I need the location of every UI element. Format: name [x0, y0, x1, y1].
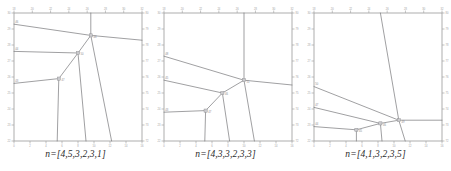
svg-text:76: 76	[296, 75, 299, 79]
svg-text:77: 77	[296, 59, 299, 63]
svg-text:30: 30	[8, 11, 11, 15]
figure-container: 0246810121416182022242628303230292827262…	[0, 0, 451, 171]
chart-plot-2: 0246810121416182022242628303230292827262…	[150, 0, 301, 150]
svg-text:6: 6	[211, 144, 213, 148]
svg-text:26: 26	[386, 7, 389, 11]
svg-text:76: 76	[446, 75, 449, 79]
svg-text:8: 8	[227, 144, 229, 148]
svg-text:28: 28	[8, 43, 11, 47]
svg-text:14: 14	[275, 144, 278, 148]
svg-text:30: 30	[308, 11, 311, 15]
svg-text:80: 80	[146, 11, 149, 15]
svg-text:26: 26	[158, 75, 161, 79]
svg-text:77: 77	[446, 59, 449, 63]
svg-text:16: 16	[291, 144, 294, 148]
svg-text:24: 24	[67, 7, 70, 11]
svg-text:44: 44	[15, 47, 18, 51]
svg-text:75: 75	[296, 91, 299, 95]
svg-text:25: 25	[8, 91, 11, 95]
svg-text:10: 10	[393, 144, 396, 148]
svg-text:30: 30	[122, 7, 125, 11]
svg-text:43: 43	[165, 108, 168, 112]
svg-text:2: 2	[29, 144, 31, 148]
svg-text:18: 18	[313, 7, 316, 11]
svg-text:16: 16	[141, 144, 144, 148]
svg-text:27: 27	[308, 59, 311, 63]
svg-text:20: 20	[31, 7, 34, 11]
svg-text:4: 4	[195, 144, 197, 148]
svg-text:80: 80	[446, 11, 449, 15]
chart-panel-1: 0246810121416182022242628303230292827262…	[0, 0, 151, 171]
svg-text:6: 6	[361, 144, 363, 148]
svg-text:2: 2	[179, 144, 181, 148]
svg-text:47: 47	[208, 110, 211, 114]
svg-text:8: 8	[77, 144, 79, 148]
chart-caption-3: n=[4,1,3,2,3,5]	[300, 149, 451, 159]
svg-text:18: 18	[163, 7, 166, 11]
svg-text:28: 28	[308, 43, 311, 47]
svg-text:22: 22	[49, 7, 52, 11]
svg-text:32: 32	[141, 7, 144, 11]
svg-text:75: 75	[446, 91, 449, 95]
svg-text:50: 50	[81, 52, 84, 56]
svg-text:30: 30	[422, 7, 425, 11]
svg-text:26: 26	[86, 7, 89, 11]
svg-text:48: 48	[93, 35, 96, 39]
svg-text:22: 22	[349, 7, 352, 11]
svg-text:32: 32	[291, 7, 294, 11]
chart-panel-2: 0246810121416182022242628303230292827262…	[150, 0, 301, 171]
svg-text:23: 23	[308, 123, 311, 127]
svg-text:25: 25	[308, 91, 311, 95]
svg-text:45: 45	[165, 76, 168, 80]
svg-text:27: 27	[158, 59, 161, 63]
svg-text:49: 49	[401, 120, 404, 124]
svg-text:78: 78	[146, 43, 149, 47]
svg-text:28: 28	[404, 7, 407, 11]
svg-text:45: 45	[359, 129, 362, 133]
svg-text:26: 26	[236, 7, 239, 11]
svg-text:44: 44	[315, 122, 318, 126]
svg-text:25: 25	[158, 91, 161, 95]
svg-text:51: 51	[247, 80, 250, 84]
svg-text:79: 79	[446, 27, 449, 31]
svg-text:28: 28	[104, 7, 107, 11]
svg-text:29: 29	[158, 27, 161, 31]
svg-text:6: 6	[61, 144, 63, 148]
svg-text:24: 24	[158, 107, 161, 111]
svg-text:47: 47	[315, 103, 318, 107]
svg-text:46: 46	[383, 123, 386, 127]
svg-text:78: 78	[446, 43, 449, 47]
svg-text:43: 43	[15, 79, 18, 83]
svg-text:23: 23	[8, 123, 11, 127]
svg-text:30: 30	[158, 11, 161, 15]
svg-text:78: 78	[296, 43, 299, 47]
svg-text:26: 26	[8, 75, 11, 79]
chart-plot-1: 0246810121416182022242628303230292827262…	[0, 0, 151, 150]
svg-text:72: 72	[296, 139, 299, 143]
svg-text:77: 77	[146, 59, 149, 63]
svg-text:29: 29	[308, 27, 311, 31]
svg-text:75: 75	[146, 91, 149, 95]
svg-text:0: 0	[313, 144, 315, 148]
svg-text:22: 22	[8, 139, 11, 143]
svg-text:14: 14	[125, 144, 128, 148]
svg-text:2: 2	[329, 144, 331, 148]
svg-text:48: 48	[165, 52, 168, 56]
chart-panel-3: 0246810121416182022242628303230292827262…	[300, 0, 451, 171]
svg-text:73: 73	[146, 123, 149, 127]
svg-text:27: 27	[8, 59, 11, 63]
svg-text:24: 24	[217, 7, 220, 11]
svg-text:46: 46	[15, 20, 18, 24]
svg-text:23: 23	[158, 123, 161, 127]
svg-text:79: 79	[296, 27, 299, 31]
svg-text:20: 20	[181, 7, 184, 11]
svg-text:12: 12	[259, 144, 262, 148]
svg-text:0: 0	[13, 144, 15, 148]
svg-text:24: 24	[308, 107, 311, 111]
svg-text:12: 12	[409, 144, 412, 148]
svg-text:72: 72	[146, 139, 149, 143]
svg-text:28: 28	[158, 43, 161, 47]
svg-text:74: 74	[446, 107, 449, 111]
svg-text:74: 74	[296, 107, 299, 111]
svg-text:22: 22	[308, 139, 311, 143]
